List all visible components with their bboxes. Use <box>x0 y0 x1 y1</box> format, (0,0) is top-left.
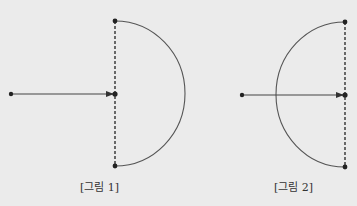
bottom-point-dot <box>343 165 348 170</box>
diagram-canvas: [그림 1] [그림 2] <box>0 0 357 206</box>
semicircle-arc-right <box>115 21 185 166</box>
source-point-dot <box>240 93 244 97</box>
source-point-dot <box>9 92 13 96</box>
middle-point-dot <box>342 92 347 97</box>
figure-2 <box>240 20 348 170</box>
figure-1 <box>9 19 185 169</box>
diagram-svg <box>0 0 357 206</box>
figure-2-caption: [그림 2] <box>274 178 313 194</box>
top-point-dot <box>113 19 118 24</box>
middle-point-dot <box>112 91 117 96</box>
figure-1-caption: [그림 1] <box>80 178 119 194</box>
bottom-point-dot <box>113 164 118 169</box>
top-point-dot <box>343 20 348 25</box>
